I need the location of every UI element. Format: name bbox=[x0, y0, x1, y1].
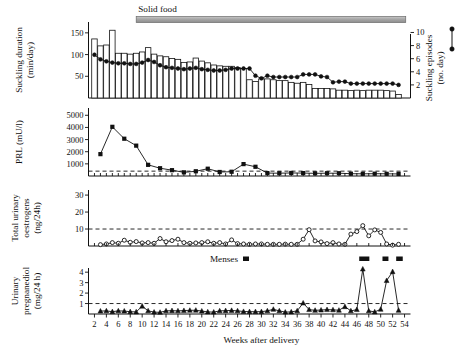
suckling-right-ytick-label: 6 bbox=[416, 54, 420, 64]
suckling-episodes-point bbox=[122, 61, 126, 65]
suckling-duration-bar bbox=[360, 91, 365, 98]
suckling-episodes-point bbox=[301, 73, 305, 77]
x-axis-tick-label: 38 bbox=[305, 319, 314, 329]
suckling-duration-bar bbox=[175, 59, 180, 98]
suckling-duration-bar bbox=[288, 82, 293, 98]
suckling-duration-bar bbox=[98, 46, 103, 98]
suckling-episodes-point bbox=[265, 74, 269, 78]
x-axis-tick-label: 8 bbox=[128, 319, 132, 329]
suckling-episodes-point bbox=[146, 58, 150, 62]
pregnanediol-point bbox=[390, 269, 395, 274]
suckling-right-axis-title-2: (no. day) bbox=[435, 51, 445, 84]
menses-label: Menses bbox=[210, 254, 238, 264]
suckling-duration-bar bbox=[318, 88, 323, 98]
suckling-episodes-point bbox=[110, 61, 114, 65]
suckling-duration-bar bbox=[277, 81, 282, 98]
pregnanediol-line bbox=[100, 269, 398, 312]
suckling-y-axis-title: Suckling duration bbox=[14, 27, 24, 93]
suckling-ytick-label: 100 bbox=[71, 50, 84, 60]
suckling-episodes-point bbox=[242, 67, 246, 71]
suckling-duration-bar bbox=[306, 85, 311, 98]
suckling-episodes-point bbox=[355, 82, 359, 86]
oestrogens-point bbox=[230, 238, 234, 242]
suckling-duration-bar bbox=[133, 53, 138, 98]
oestrogens-point bbox=[337, 242, 341, 246]
suckling-episodes-point bbox=[385, 82, 389, 86]
suckling-episodes-point bbox=[319, 74, 323, 78]
oestrogens-point bbox=[98, 243, 102, 247]
x-axis-tick-label: 36 bbox=[293, 319, 302, 329]
oestrogens-point bbox=[385, 242, 389, 246]
oestrogens-point bbox=[313, 239, 317, 243]
figure-container: Solid food50100150246810Suckling duratio… bbox=[0, 0, 465, 361]
oestrogens-ytick-label: 20 bbox=[75, 207, 84, 217]
suckling-episodes-point bbox=[212, 69, 216, 73]
x-axis-tick-label: 48 bbox=[365, 319, 374, 329]
oestrogens-point bbox=[110, 241, 114, 245]
suckling-duration-bar bbox=[92, 39, 97, 98]
suckling-duration-bar bbox=[396, 95, 401, 98]
suckling-episodes-point bbox=[248, 67, 252, 71]
suckling-duration-bar bbox=[157, 56, 162, 98]
solid-food-bar bbox=[136, 17, 406, 23]
prl-ytick-label: 1000 bbox=[67, 159, 84, 169]
suckling-duration-bar bbox=[247, 80, 252, 98]
x-axis-tick-label: 26 bbox=[233, 319, 242, 329]
suckling-episodes-point bbox=[349, 82, 353, 86]
suckling-episodes-point bbox=[289, 75, 293, 79]
x-axis-tick-label: 44 bbox=[341, 319, 350, 329]
suckling-episodes-point bbox=[230, 67, 234, 71]
suckling-episodes-point bbox=[373, 82, 377, 86]
x-axis-tick-label: 28 bbox=[245, 319, 254, 329]
oestrogens-point bbox=[242, 242, 246, 246]
suckling-duration-bar bbox=[378, 90, 383, 98]
suckling-episodes-point bbox=[104, 59, 108, 63]
x-axis-tick-label: 6 bbox=[116, 319, 120, 329]
oestrogens-point bbox=[301, 237, 305, 241]
suckling-duration-bar bbox=[199, 61, 204, 98]
suckling-episodes-point bbox=[337, 80, 341, 84]
menses-bar bbox=[382, 257, 388, 262]
pregnanediol-point bbox=[343, 304, 348, 309]
suckling-episodes-point bbox=[93, 53, 97, 57]
suckling-duration-bar bbox=[241, 68, 246, 98]
x-axis-tick-label: 30 bbox=[257, 319, 266, 329]
pregnanediol-point bbox=[301, 300, 306, 305]
suckling-duration-bar bbox=[336, 90, 341, 98]
oestrogens-y-axis-title-3: (ng/24h) bbox=[32, 202, 42, 234]
suckling-episodes-point bbox=[116, 61, 120, 65]
x-axis-tick-label: 50 bbox=[376, 319, 385, 329]
suckling-right-ytick-label: 2 bbox=[416, 80, 420, 90]
pregnanediol-ytick-label: 1 bbox=[79, 299, 83, 309]
oestrogens-point bbox=[253, 242, 257, 246]
prl-point bbox=[206, 167, 210, 171]
legend-point-bottom bbox=[450, 47, 454, 51]
suckling-duration-bar bbox=[139, 52, 144, 98]
x-axis-tick-label: 46 bbox=[353, 319, 362, 329]
suckling-episodes-point bbox=[367, 82, 371, 86]
oestrogens-point bbox=[397, 242, 401, 246]
suckling-duration-bar bbox=[354, 90, 359, 98]
suckling-episodes-point bbox=[170, 66, 174, 70]
pregnanediol-ytick-label: 2 bbox=[79, 288, 83, 298]
x-axis-tick-label: 18 bbox=[186, 319, 195, 329]
suckling-episodes-point bbox=[99, 57, 103, 61]
prl-point bbox=[170, 168, 174, 172]
oestrogens-point bbox=[194, 241, 198, 245]
oestrogens-point bbox=[379, 230, 383, 234]
suckling-duration-bar bbox=[300, 82, 305, 98]
suckling-episodes-point bbox=[152, 60, 156, 64]
suckling-episodes-point bbox=[158, 63, 162, 67]
suckling-episodes-point bbox=[313, 73, 317, 77]
suckling-right-ytick-label: 4 bbox=[416, 67, 421, 77]
suckling-duration-bar bbox=[122, 53, 127, 98]
suckling-episodes-point bbox=[295, 75, 299, 79]
suckling-episodes-point bbox=[200, 67, 204, 71]
oestrogens-point bbox=[122, 238, 126, 242]
pregnanediol-y-axis-title: Urinary bbox=[10, 276, 20, 305]
suckling-episodes-point bbox=[206, 68, 210, 72]
suckling-duration-bar bbox=[283, 81, 288, 98]
suckling-right-ytick-label: 8 bbox=[416, 41, 420, 51]
x-axis-tick-label: 34 bbox=[281, 319, 290, 329]
prl-point bbox=[110, 125, 114, 129]
